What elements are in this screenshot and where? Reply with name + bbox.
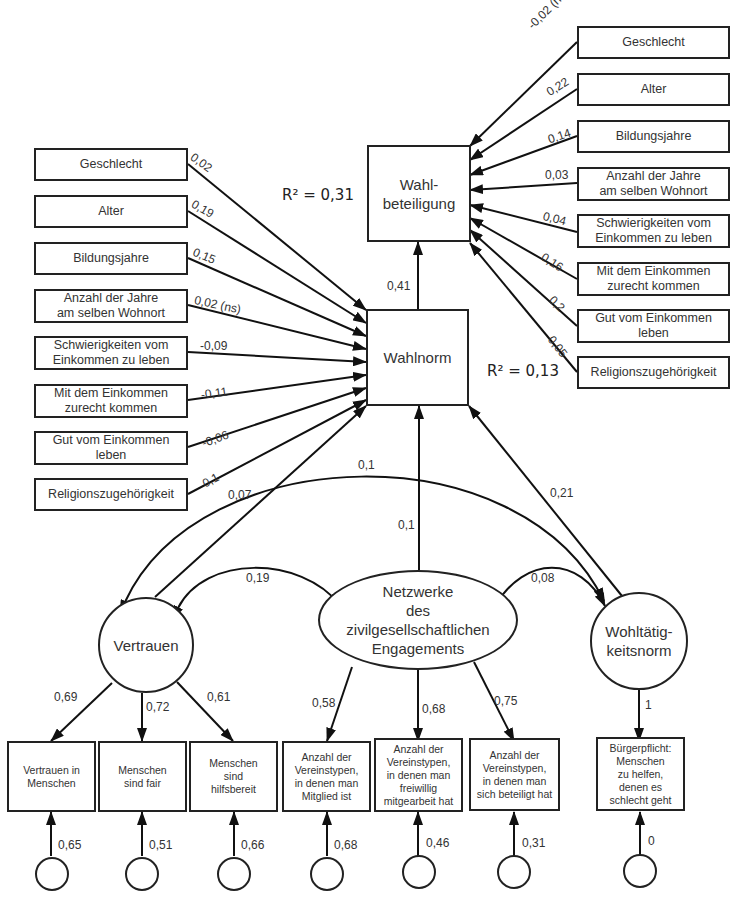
coef-wohltaetigkeit-to-wahlnorm: 0,21 [550, 486, 573, 500]
outcome-box-wahlbeteiligung: Wahl- beteiligung [367, 145, 471, 242]
error-label: 0,68 [334, 838, 357, 852]
coef-outcome-control: 0,03 [545, 168, 568, 182]
corr-vertrauen-netzwerke: 0,19 [246, 571, 269, 585]
coef-mediator-to-outcome: 0,41 [387, 279, 410, 293]
mediator-r-squared: R² = 0,13 [487, 362, 559, 380]
coef-mediator-control: -0,09 [200, 339, 227, 353]
error-term [497, 855, 531, 889]
mediator-control-box: Geschlecht [34, 148, 188, 181]
outcome-control-box: Gut vom Einkommen leben [577, 309, 730, 343]
mediator-box-wahlnorm: Wahlnorm [366, 309, 469, 406]
corr-vertrauen-wohltaetigkeit: 0,1 [358, 458, 375, 472]
indicator-box: Menschen sind hilfsbereit [189, 741, 278, 812]
mediator-control-box: Alter [34, 195, 188, 228]
mediator-control-box: Religionszugehörigkeit [34, 478, 188, 511]
mediator-control-box: Mit dem Einkommen zurecht kommen [34, 384, 188, 418]
coef-vertrauen-to-wahlnorm: 0,07 [228, 488, 251, 502]
error-term [623, 854, 657, 888]
error-label: 0,46 [426, 836, 449, 850]
error-term [35, 857, 69, 891]
indicator-box: Anzahl der Vereinstypen, in denen man fr… [374, 738, 463, 812]
latent-netzwerke: Netzwerke des zivilgesellschaftlichen En… [318, 570, 518, 670]
latent-vertrauen: Vertrauen [98, 597, 194, 693]
outcome-control-box: Geschlecht [577, 26, 730, 59]
corr-netzwerke-wohltaetigkeit: 0,08 [531, 571, 554, 585]
loading-label: 0,61 [207, 690, 230, 704]
error-label: 0 [648, 834, 655, 848]
mediator-control-box: Bildungsjahre [34, 242, 188, 275]
outcome-control-box: Alter [577, 73, 730, 106]
outcome-control-box: Religionszugehörigkeit [577, 356, 730, 389]
latent-wohltaetigkeitsnorm: Wohltätig- keitsnorm [590, 592, 688, 690]
outcome-r-squared: R² = 0,31 [282, 186, 354, 204]
mediator-control-box: Schwierigkeiten vom Einkommen zu leben [34, 336, 188, 370]
error-term [125, 857, 159, 891]
loading-label: 0,68 [422, 702, 445, 716]
indicator-box: Anzahl der Vereinstypen, in denen man si… [469, 738, 560, 811]
mediator-control-box: Anzahl der Jahre am selben Wohnort [34, 289, 188, 323]
error-label: 0,65 [58, 838, 81, 852]
outcome-control-box: Anzahl der Jahre am selben Wohnort [577, 167, 730, 201]
outcome-control-box: Bildungsjahre [577, 120, 730, 153]
coef-netzwerke-to-wahlnorm: 0,1 [398, 518, 415, 532]
error-term [217, 857, 251, 891]
sem-path-diagram: Wahl- beteiligung R² = 0,31 Wahlnorm R² … [0, 0, 743, 903]
mediator-control-box: Gut vom Einkommen leben [34, 431, 188, 465]
loading-label: 1 [645, 698, 652, 712]
error-term [310, 857, 344, 891]
indicator-box: Vertrauen in Menschen [7, 741, 96, 812]
error-label: 0,51 [149, 838, 172, 852]
loading-label: 0,75 [494, 694, 517, 708]
indicator-box: Anzahl der Vereinstypen, in denen man Mi… [282, 741, 371, 812]
error-label: 0,31 [522, 836, 545, 850]
indicator-box: Menschen sind fair [98, 741, 187, 812]
error-term [402, 855, 436, 889]
outcome-control-box: Schwierigkeiten vom Einkommen zu leben [577, 214, 730, 248]
loading-label: 0,69 [54, 690, 77, 704]
error-label: 0,66 [241, 838, 264, 852]
outcome-control-box: Mit dem Einkommen zurecht kommen [577, 262, 730, 296]
indicator-box: Bürgerpflicht: Menschen zu helfen, denen… [596, 737, 685, 811]
loading-label: 0,72 [146, 700, 169, 714]
loading-label: 0,58 [312, 696, 335, 710]
